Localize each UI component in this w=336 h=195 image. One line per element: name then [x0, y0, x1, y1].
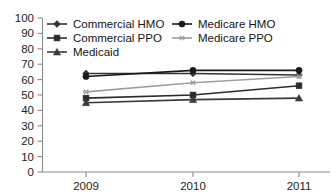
series-medicare-ppo [83, 74, 302, 94]
legend-item-commercial-ppo[interactable]: Commercial PPO [47, 32, 162, 44]
data-point-square-marker [54, 35, 60, 41]
y-axis-ticks [38, 18, 43, 172]
legend-label: Commercial HMO [73, 18, 164, 30]
y-tick-label: 50 [21, 89, 34, 101]
legend-label: Commercial PPO [73, 32, 162, 44]
y-tick-label: 80 [21, 43, 34, 55]
data-point-circle-marker [190, 67, 196, 73]
x-tick-label: 2011 [287, 180, 312, 192]
y-tick-label: 60 [21, 74, 34, 86]
y-tick-label: 0 [28, 166, 34, 178]
legend-label: Medicare HMO [198, 18, 275, 30]
data-point-diamond-marker [54, 21, 61, 28]
y-tick-label: 30 [21, 120, 34, 132]
x-tick-label: 2010 [180, 180, 206, 192]
legend-item-commercial-hmo[interactable]: Commercial HMO [47, 18, 164, 30]
y-tick-label: 70 [21, 58, 34, 70]
y-tick-label: 100 [15, 12, 34, 24]
y-tick-label: 20 [21, 135, 34, 147]
data-point-circle-marker [83, 73, 89, 79]
series-line [86, 77, 299, 92]
data-point-circle-marker [179, 21, 185, 27]
x-tick-label: 2009 [73, 180, 99, 192]
series-layer [82, 67, 302, 105]
x-axis-ticks [86, 172, 299, 177]
chart-canvas: 0102030405060708090100 200920102011 Comm… [0, 0, 336, 195]
legend-item-medicare-ppo[interactable]: Medicare PPO [172, 32, 273, 44]
data-point-star-marker [190, 81, 196, 85]
data-point-star-marker [83, 90, 89, 94]
y-tick-label: 40 [21, 104, 34, 116]
y-tick-label: 90 [21, 27, 34, 39]
data-point-square-marker [296, 83, 302, 89]
legend-label: Medicare PPO [198, 32, 273, 44]
legend-label: Medicaid [73, 46, 119, 58]
y-tick-label: 10 [21, 151, 34, 163]
data-point-circle-marker [296, 67, 302, 73]
legend-item-medicaid[interactable]: Medicaid [47, 46, 119, 58]
legend-item-medicare-hmo[interactable]: Medicare HMO [172, 18, 275, 30]
line-chart: 0102030405060708090100 200920102011 Comm… [0, 0, 336, 195]
chart-legend: Commercial HMOMedicare HMOCommercial PPO… [47, 18, 275, 58]
y-axis-tick-labels: 0102030405060708090100 [15, 12, 34, 178]
x-axis-tick-labels: 200920102011 [73, 180, 311, 192]
data-point-star-marker [179, 36, 185, 40]
